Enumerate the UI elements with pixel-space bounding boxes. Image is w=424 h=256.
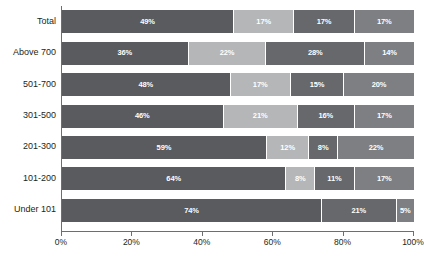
category-label: Under 101 <box>2 205 56 214</box>
bar-row: 36%22%28%14% <box>62 42 414 65</box>
x-axis-line <box>61 231 414 232</box>
bar-segment: 36% <box>62 42 189 65</box>
bars-region: 49%17%17%17%36%22%28%14%48%17%15%20%46%2… <box>62 6 414 226</box>
category-axis-labels: TotalAbove 700501-700301-500201-300101-2… <box>0 6 56 226</box>
bar-segment: 8% <box>309 136 338 159</box>
category-label: 301-500 <box>2 111 56 120</box>
category-label: 101-200 <box>2 174 56 183</box>
x-axis-tick-label: 0% <box>55 238 67 247</box>
bar-segment: 5% <box>397 199 415 222</box>
bar-segment: 20% <box>344 73 414 96</box>
x-axis-tick-label: 60% <box>264 238 281 247</box>
bar-segment: 28% <box>266 42 365 65</box>
bar-segment-value: 17% <box>377 112 392 120</box>
bar-segment: 49% <box>62 10 234 33</box>
bar-row: 59%12%8%22% <box>62 136 414 159</box>
plot-area: 49%17%17%17%36%22%28%14%48%17%15%20%46%2… <box>62 6 414 231</box>
bar-segment-value: 36% <box>117 49 132 57</box>
category-label: Total <box>2 17 56 26</box>
bar-segment: 17% <box>294 10 354 33</box>
bar-segment: 17% <box>231 73 291 96</box>
bar-segment-value: 14% <box>382 49 397 57</box>
bar-segment-value: 21% <box>253 112 268 120</box>
bar-row: 64%8%11%17% <box>62 167 414 190</box>
bar-segment-value: 8% <box>295 175 306 183</box>
bar-segment-value: 46% <box>135 112 150 120</box>
bar-segment: 17% <box>355 167 414 190</box>
bar-row: 46%21%16%17% <box>62 105 414 128</box>
category-label: 201-300 <box>2 142 56 151</box>
bar-segment: 21% <box>224 105 298 128</box>
x-axis-tick-label: 80% <box>334 238 351 247</box>
bar-segment-value: 5% <box>400 207 411 215</box>
x-axis-tick <box>61 232 62 236</box>
bar-segment: 46% <box>62 105 224 128</box>
bar-segment-value: 17% <box>253 81 268 89</box>
bar-segment: 16% <box>298 105 355 128</box>
bar-segment: 15% <box>291 73 344 96</box>
x-axis-tick-label: 40% <box>193 238 210 247</box>
bar-segment: 48% <box>62 73 231 96</box>
x-axis-tick-label: 20% <box>123 238 140 247</box>
bar-segment: 22% <box>189 42 267 65</box>
bar-segment: 17% <box>355 105 414 128</box>
bar-segment: 17% <box>234 10 294 33</box>
bar-segment: 12% <box>267 136 309 159</box>
x-axis-tick <box>343 232 344 236</box>
bar-segment: 22% <box>338 136 414 159</box>
bar-segment-value: 15% <box>310 81 325 89</box>
bar-segment-value: 17% <box>377 175 392 183</box>
bar-segment: 21% <box>322 199 397 222</box>
bar-segment-value: 20% <box>372 81 387 89</box>
x-axis-tick <box>131 232 132 236</box>
bar-row: 49%17%17%17% <box>62 10 414 33</box>
bar-segment-value: 17% <box>317 18 332 26</box>
bar-segment: 14% <box>365 42 414 65</box>
bar-segment-value: 74% <box>184 207 199 215</box>
bar-segment-value: 17% <box>377 18 392 26</box>
bar-segment-value: 22% <box>220 49 235 57</box>
x-axis-tick <box>272 232 273 236</box>
x-axis-tick <box>413 232 414 236</box>
bar-segment: 8% <box>286 167 315 190</box>
bar-segment: 64% <box>62 167 286 190</box>
bar-segment-value: 59% <box>157 144 172 152</box>
bar-segment-value: 22% <box>369 144 384 152</box>
category-label: Above 700 <box>2 48 56 57</box>
bar-segment-value: 64% <box>166 175 181 183</box>
bar-segment-value: 48% <box>138 81 153 89</box>
bar-segment: 17% <box>355 10 414 33</box>
bar-row: 48%17%15%20% <box>62 73 414 96</box>
bar-segment: 74% <box>62 199 322 222</box>
bar-segment: 11% <box>315 167 354 190</box>
bar-segment-value: 17% <box>256 18 271 26</box>
bar-segment-value: 21% <box>351 207 366 215</box>
x-axis-tick-label: 100% <box>402 238 424 247</box>
x-axis-tick <box>202 232 203 236</box>
bar-segment-value: 8% <box>318 144 329 152</box>
bar-segment: 59% <box>62 136 267 159</box>
bar-segment-value: 12% <box>280 144 295 152</box>
category-label: 501-700 <box>2 80 56 89</box>
bar-segment-value: 11% <box>327 175 341 183</box>
bar-segment-value: 16% <box>318 112 333 120</box>
bar-segment-value: 49% <box>140 18 155 26</box>
bar-row: 74%21%5% <box>62 199 414 222</box>
bar-segment-value: 28% <box>308 49 323 57</box>
